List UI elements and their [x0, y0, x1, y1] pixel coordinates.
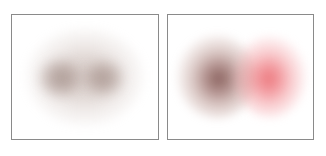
density-blob-dark-right: [177, 35, 257, 119]
caption-row: · ·· — · ·· · ··· ·· · —— · ·· ·· ··· ··…: [0, 144, 326, 156]
panel-right: [167, 14, 314, 140]
density-blob-lobe-left-1: [38, 58, 82, 98]
plot-area-left: [12, 15, 158, 139]
plot-area-right: [168, 15, 313, 139]
density-blob-bright-right: [234, 36, 306, 118]
density-blob-lobe-left-2: [83, 59, 125, 97]
figure-root: · ·· — · ·· · ··· ·· · —— · ·· ·· ··· ··…: [0, 0, 326, 156]
panel-left: [11, 14, 159, 140]
density-blob-halo-left: [26, 28, 144, 126]
